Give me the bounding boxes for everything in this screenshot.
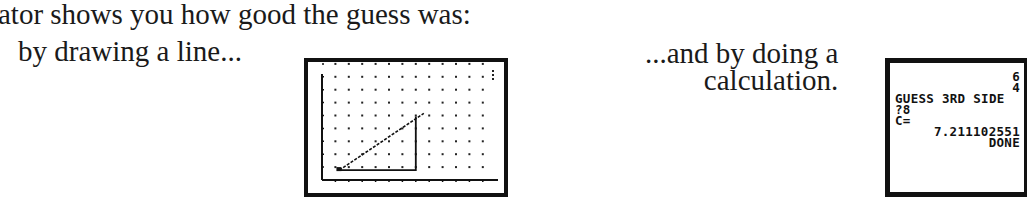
caption-calculation-line1: ...and by doing a — [645, 40, 838, 67]
caption-calculation-line2: calculation. — [645, 67, 838, 94]
caption-drawing-line: by drawing a line... — [18, 35, 242, 68]
graph-plot — [308, 62, 504, 193]
intro-sentence: ator shows you how good the guess was: — [0, 0, 471, 31]
calculator-line: 6 — [895, 71, 1020, 82]
graph-screen — [304, 58, 508, 197]
calculator-line: GUESS 3RD SIDE — [895, 93, 1020, 104]
calculator-screen: 64GUESS 3RD SIDE?8C=7.211102551DONE — [885, 58, 1027, 197]
caption-calculation: ...and by doing a calculation. — [645, 40, 838, 94]
calculator-output: 64GUESS 3RD SIDE?8C=7.211102551DONE — [895, 71, 1020, 148]
